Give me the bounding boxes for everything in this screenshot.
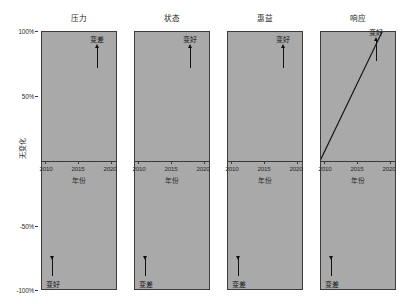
panel-benefit[interactable]: 惠益 2010 2015 2020 年份 变好 变差 — [224, 0, 306, 304]
panel-pressure[interactable]: 压力 2010 2015 2020 年份 变差 变好 — [38, 0, 120, 304]
x-tick-label-2015-benefit: 2015 — [258, 165, 271, 172]
x-tickmark-2020-response — [390, 161, 391, 164]
x-tick-label-2010-response: 2010 — [319, 165, 332, 172]
y-tick-label-neg100: -100% — [17, 287, 34, 294]
plot-area-response-upper — [320, 31, 396, 161]
x-tickmark-2010-state — [138, 161, 139, 164]
x-tickmark-2015-benefit — [264, 161, 265, 164]
plot-area-state-upper — [134, 31, 210, 161]
annotation-top-label-pressure: 变差 — [90, 34, 105, 44]
x-axis-title-benefit: 年份 — [258, 175, 272, 185]
figure-root: 100% 50% -50% -100% 无变化 压力 2010 2015 202… — [0, 0, 405, 304]
y-axis: 100% 50% -50% -100% 无变化 — [0, 0, 38, 304]
panel-title-state: 状态 — [131, 12, 213, 23]
x-axis-line-benefit — [227, 161, 303, 162]
y-tick-label-neg50: -50% — [20, 223, 34, 230]
panel-state[interactable]: 状态 2010 2015 2020 年份 变好 变差 — [131, 0, 213, 304]
x-tick-label-2010-state: 2010 — [133, 165, 146, 172]
annotation-bottom-label-benefit: 变差 — [232, 279, 247, 289]
annotation-top-label-state: 变好 — [183, 34, 198, 44]
x-axis-line-response — [320, 161, 396, 162]
x-tick-label-2015-state: 2015 — [165, 165, 178, 172]
plot-area-pressure-upper — [41, 31, 117, 161]
x-tickmark-2010-response — [324, 161, 325, 164]
x-tick-label-2010-pressure: 2010 — [40, 165, 53, 172]
annotation-bottom-label-response: 变差 — [325, 279, 340, 289]
x-tickmark-2020-state — [204, 161, 205, 164]
x-tick-label-2020-response: 2020 — [383, 165, 396, 172]
x-tickmark-2015-pressure — [78, 161, 79, 164]
panel-title-response: 响应 — [317, 12, 399, 23]
x-tickmark-2015-response — [357, 161, 358, 164]
x-tick-label-2015-pressure: 2015 — [72, 165, 85, 172]
x-tick-label-2020-benefit: 2020 — [290, 165, 303, 172]
annotation-top-label-response: 变好 — [369, 27, 384, 37]
trend-line-response-upper — [321, 32, 396, 161]
x-tickmark-2020-pressure — [111, 161, 112, 164]
x-tick-label-2020-pressure: 2020 — [104, 165, 117, 172]
panel-response[interactable]: 响应 2010 2015 2020 年份 变好 — [317, 0, 399, 304]
panel-title-pressure: 压力 — [38, 12, 120, 23]
plot-area-benefit-upper — [227, 31, 303, 161]
y-tick-label-100: 100% — [18, 28, 34, 35]
x-tickmark-2010-pressure — [45, 161, 46, 164]
x-tick-label-2015-response: 2015 — [351, 165, 364, 172]
panel-title-benefit: 惠益 — [224, 12, 306, 23]
x-axis-title-pressure: 年份 — [72, 175, 86, 185]
annotation-top-label-benefit: 变好 — [276, 34, 291, 44]
x-axis-line-state — [134, 161, 210, 162]
x-tickmark-2015-state — [171, 161, 172, 164]
annotation-bottom-label-state: 变差 — [139, 279, 154, 289]
x-tick-label-2010-benefit: 2010 — [226, 165, 239, 172]
x-axis-title-state: 年份 — [165, 175, 179, 185]
y-axis-title: 无变化 — [17, 138, 27, 159]
x-tick-label-2020-state: 2020 — [197, 165, 210, 172]
x-axis-line-pressure — [41, 161, 117, 162]
x-axis-title-response: 年份 — [351, 175, 365, 185]
y-tick-label-50: 50% — [22, 93, 34, 100]
x-tickmark-2010-benefit — [231, 161, 232, 164]
x-tickmark-2020-benefit — [297, 161, 298, 164]
annotation-bottom-label-pressure: 变好 — [46, 279, 61, 289]
